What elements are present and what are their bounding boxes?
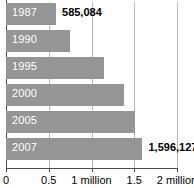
x-tick-label: 0.5 [41, 174, 56, 186]
bar-value-label: 585,084 [62, 6, 102, 18]
bar-category-label: 2007 [12, 141, 37, 153]
x-tick-label: 2 million [157, 174, 194, 186]
x-tick-mark [134, 168, 135, 172]
bar-category-label: 1987 [12, 6, 37, 18]
x-axis: 00.51 million1.52 million [0, 168, 194, 188]
bar-category-label: 1990 [12, 33, 37, 45]
x-tick-mark [92, 168, 93, 172]
bar-category-label: 2005 [12, 114, 37, 126]
x-tick-label: 1.5 [127, 174, 142, 186]
x-tick-label: 0 [3, 174, 9, 186]
bar-value-label: 1,596,127 [148, 141, 194, 153]
bar-category-label: 1995 [12, 60, 37, 72]
plot-area: 1987585,084199019952000200520071,596,127 [0, 0, 194, 168]
bar-chart: 1987585,084199019952000200520071,596,127… [0, 0, 194, 188]
x-tick-mark [49, 168, 50, 172]
x-tick-mark [6, 168, 7, 172]
x-tick-mark [177, 168, 178, 172]
bar-category-label: 2000 [12, 87, 37, 99]
x-tick-label: 1 million [71, 174, 111, 186]
